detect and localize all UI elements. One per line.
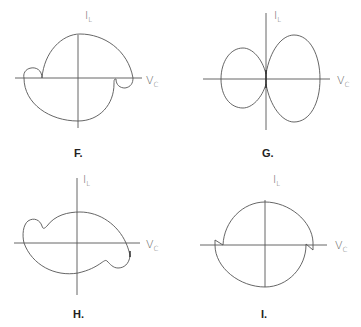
panel-f: IL VC F. (15, 9, 159, 159)
lobe-right (266, 35, 320, 122)
step-left (215, 240, 223, 245)
v-axis-label: VC (335, 239, 348, 254)
panel-h: IL VC H. (14, 173, 159, 320)
trajectory-lower (215, 245, 306, 287)
panel-label: H. (73, 308, 84, 320)
loop-left (24, 68, 42, 78)
i-axis-label: IL (85, 9, 92, 24)
i-axis-label: IL (83, 173, 90, 188)
step-right (306, 242, 313, 250)
v-axis-label: VC (146, 238, 159, 253)
panel-label: F. (74, 147, 83, 159)
panel-g: IL VC G. (203, 9, 350, 159)
v-axis-label: VC (146, 74, 159, 89)
trajectory-lower (24, 78, 114, 121)
v-axis-label: VC (337, 74, 350, 89)
diagram-canvas: IL VC F. IL VC G. IL VC H. IL (0, 0, 361, 327)
trajectory-upper (42, 34, 133, 78)
panel-label: I. (261, 308, 267, 320)
panel-label: G. (262, 147, 274, 159)
panel-i: IL VC I. (200, 173, 348, 320)
i-axis-label: IL (274, 9, 281, 24)
trajectory-upper (223, 202, 313, 245)
lobe-left (221, 48, 266, 108)
loop-right (114, 78, 133, 88)
i-axis-label: IL (273, 173, 280, 188)
